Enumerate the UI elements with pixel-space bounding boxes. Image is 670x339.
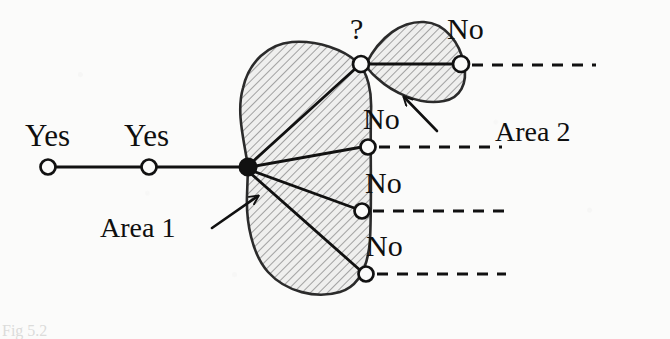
label-no-far: No: [447, 14, 484, 44]
label-no-3: No: [365, 168, 402, 198]
area-1-region: [240, 42, 371, 295]
node-yes-2: [142, 160, 157, 175]
node-no-4: [359, 267, 374, 282]
label-no-2: No: [363, 104, 400, 134]
label-no-4: No: [366, 231, 403, 261]
label-area-2: Area 2: [495, 118, 570, 146]
node-yes-1: [41, 160, 56, 175]
label-yes-1: Yes: [25, 120, 70, 151]
label-yes-2: Yes: [124, 120, 169, 151]
node-no-2: [361, 140, 376, 155]
diagram-svg: Fig 5.2: [0, 0, 670, 339]
figure-canvas: Fig 5.2 Yes Yes ? No No No No Area 1 Are…: [0, 0, 670, 339]
node-no-far: [453, 56, 469, 72]
caption-fragment: Fig 5.2: [2, 322, 47, 339]
label-area-1: Area 1: [100, 214, 175, 242]
node-no-3: [355, 204, 370, 219]
label-question: ?: [350, 14, 363, 44]
node-question: [353, 56, 369, 72]
node-hub: [240, 159, 257, 176]
